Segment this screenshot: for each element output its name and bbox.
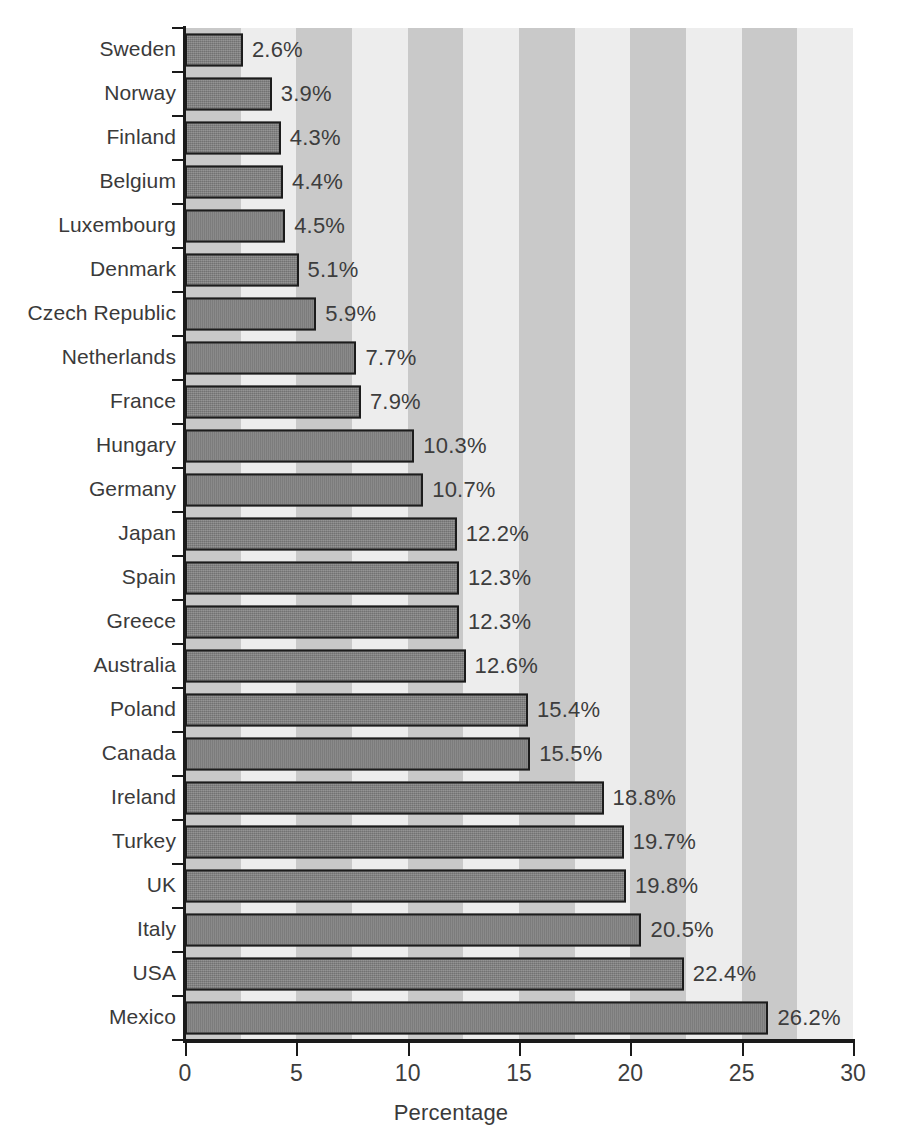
category-label: Greece [0,609,176,633]
bar[interactable] [185,342,356,375]
bar[interactable] [185,34,243,67]
bar[interactable] [185,562,459,595]
y-axis-tick [172,555,183,557]
y-axis-tick [172,687,183,689]
category-label: Denmark [0,257,176,281]
bar[interactable] [185,914,641,947]
x-axis-tick [185,1043,187,1056]
bar[interactable] [185,958,684,991]
bar-row: 4.3% [185,116,853,160]
bar[interactable] [185,870,626,903]
bar-row: 15.4% [185,688,853,732]
bar[interactable] [185,474,423,507]
x-axis-tick [853,1043,855,1056]
y-axis-tick [172,423,183,425]
bar-value-label: 26.2% [777,1005,840,1031]
bar[interactable] [185,298,316,331]
bar[interactable] [185,122,281,155]
bar[interactable] [185,210,285,243]
bar-row: 7.9% [185,380,853,424]
category-label: Finland [0,125,176,149]
bar-row: 15.5% [185,732,853,776]
bar[interactable] [185,254,299,287]
x-axis-tick [296,1043,298,1056]
bar-value-label: 4.3% [290,125,341,151]
bar-value-label: 2.6% [252,37,303,63]
y-axis-tick [172,247,183,249]
bar-value-label: 22.4% [693,961,756,987]
bar[interactable] [185,650,466,683]
category-label: Netherlands [0,345,176,369]
category-label: Belgium [0,169,176,193]
category-label: Luxembourg [0,213,176,237]
bar-row: 12.6% [185,644,853,688]
category-label: Norway [0,81,176,105]
bar-row: 19.8% [185,864,853,908]
category-label: Turkey [0,829,176,853]
bar-value-label: 7.9% [370,389,421,415]
bar-row: 10.3% [185,424,853,468]
bar-value-label: 4.5% [294,213,345,239]
bar-value-label: 15.4% [537,697,600,723]
y-axis-tick [172,643,183,645]
bar-row: 7.7% [185,336,853,380]
bar-value-label: 10.7% [432,477,495,503]
y-axis-tick [172,995,183,997]
y-axis-tick [172,467,183,469]
bar-row: 26.2% [185,996,853,1040]
y-axis-tick [172,907,183,909]
category-label: Australia [0,653,176,677]
bar-row: 18.8% [185,776,853,820]
bar[interactable] [185,606,459,639]
bar[interactable] [185,386,361,419]
y-axis-line [183,26,186,1042]
x-axis-tick-label: 0 [145,1060,225,1087]
bar-row: 4.5% [185,204,853,248]
y-axis-tick [172,951,183,953]
category-label: Japan [0,521,176,545]
x-axis-title: Percentage [0,1100,902,1126]
category-label: Germany [0,477,176,501]
bar-row: 19.7% [185,820,853,864]
category-label: Canada [0,741,176,765]
bar-value-label: 12.3% [468,609,531,635]
bar-value-label: 12.6% [475,653,538,679]
bar-value-label: 5.9% [325,301,376,327]
x-axis-tick [408,1043,410,1056]
bar[interactable] [185,166,283,199]
category-label: Czech Republic [0,301,176,325]
bar[interactable] [185,1002,768,1035]
bar-row: 3.9% [185,72,853,116]
bar[interactable] [185,738,530,771]
category-label: Poland [0,697,176,721]
bar-value-label: 20.5% [650,917,713,943]
bar-value-label: 18.8% [613,785,676,811]
bar[interactable] [185,782,604,815]
bar-row: 12.3% [185,556,853,600]
y-axis-tick [172,819,183,821]
x-axis-tick-label: 25 [702,1060,782,1087]
bar-row: 10.7% [185,468,853,512]
y-axis-tick [172,1039,183,1041]
bar[interactable] [185,826,624,859]
bar[interactable] [185,694,528,727]
bar[interactable] [185,430,414,463]
bar-value-label: 12.3% [468,565,531,591]
category-label: Italy [0,917,176,941]
x-axis-tick-label: 20 [590,1060,670,1087]
bar[interactable] [185,518,457,551]
x-axis-tick-label: 10 [368,1060,448,1087]
bar-row: 2.6% [185,28,853,72]
category-label: France [0,389,176,413]
y-axis-tick [172,599,183,601]
x-axis-tick [742,1043,744,1056]
bar[interactable] [185,78,272,111]
bar-value-label: 4.4% [292,169,343,195]
y-axis-tick [172,71,183,73]
bar-value-label: 5.1% [308,257,359,283]
bar-row: 12.3% [185,600,853,644]
y-axis-tick [172,379,183,381]
bar-value-label: 12.2% [466,521,529,547]
bar-value-label: 3.9% [281,81,332,107]
y-axis-tick [172,27,183,29]
